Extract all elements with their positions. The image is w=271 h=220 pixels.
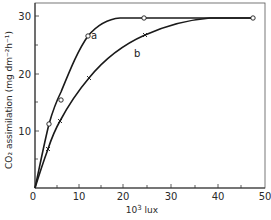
marker-circle <box>251 16 255 20</box>
y-axis-title: CO₂ assimilation (mg dm⁻²h⁻¹) <box>4 31 14 169</box>
chart-canvas: 30 20 10 0 10 20 30 40 50 103 lux CO₂ as… <box>0 0 271 220</box>
marker-circle <box>86 34 90 38</box>
marker-circle <box>47 122 51 126</box>
y-tick-label-20: 20 <box>18 69 31 80</box>
y-ticks <box>35 16 39 159</box>
x-tick-label-40: 40 <box>212 191 225 202</box>
x-tick-label-30: 30 <box>165 191 178 202</box>
x-axis-title: 103 lux <box>126 204 159 215</box>
x-tick-label-10: 10 <box>73 191 86 202</box>
plot-frame <box>35 3 265 188</box>
y-tick-label-30: 30 <box>18 11 31 22</box>
x-axis-title-unit: lux <box>142 205 159 215</box>
curve-a-label: a <box>91 30 97 41</box>
x-tick-label-0: 0 <box>30 191 36 202</box>
x-axis-title-base: 10 <box>126 205 138 215</box>
x-ticks <box>57 184 241 188</box>
y-tick-label-10: 10 <box>18 126 31 137</box>
marker-circle <box>59 98 63 102</box>
curve-b <box>35 18 253 188</box>
marker-circle <box>142 16 146 20</box>
marker-cross <box>87 76 91 80</box>
curve-b-label: b <box>134 48 140 59</box>
x-tick-label-50: 50 <box>259 191 271 202</box>
x-tick-label-20: 20 <box>117 191 130 202</box>
curve-a <box>35 18 253 188</box>
